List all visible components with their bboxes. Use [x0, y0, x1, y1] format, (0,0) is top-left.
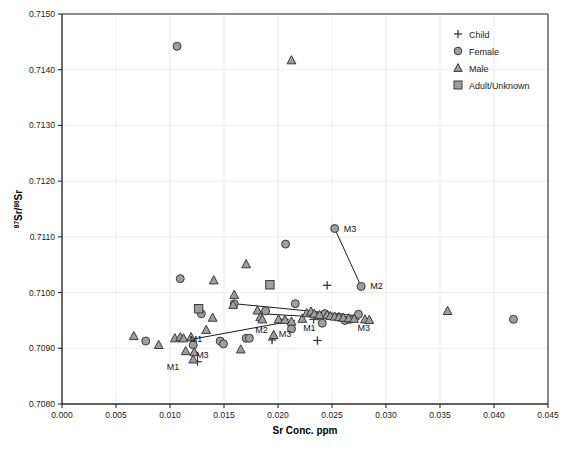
y-tick-label: 0.7110: [30, 232, 56, 242]
data-point-triangle: [236, 345, 245, 353]
x-axis-title: Sr Conc. ppm: [272, 425, 337, 436]
data-point-triangle: [230, 290, 239, 298]
data-point-triangle: [454, 64, 462, 72]
x-tick-label: 0.020: [267, 410, 289, 420]
data-point-square: [266, 281, 274, 289]
data-point-circle: [331, 225, 339, 233]
data-point-plus: [313, 336, 321, 344]
data-point-triangle: [129, 331, 138, 339]
data-point-plus: [454, 30, 462, 38]
data-point-circle: [245, 334, 253, 342]
chart-root: 0.0000.0050.0100.0150.0200.0250.0300.035…: [0, 0, 567, 461]
data-point-triangle: [202, 325, 211, 333]
y-tick-label: 0.7080: [29, 399, 55, 409]
x-tick-label: 0.040: [483, 410, 505, 420]
point-annotation-label: M1: [190, 334, 203, 344]
x-tick-label: 0.030: [375, 410, 397, 420]
data-point-circle: [262, 307, 270, 315]
y-tick-label: 0.7100: [29, 288, 55, 298]
data-point-circle: [219, 340, 227, 348]
y-axis-ticks: 0.70800.70900.71000.71100.71200.71300.71…: [29, 9, 62, 409]
legend-label-adult-unknown: Adult/Unknown: [469, 81, 530, 91]
x-tick-label: 0.035: [429, 410, 451, 420]
data-point-circle: [142, 337, 150, 345]
data-point-circle: [318, 319, 326, 327]
y-tick-label: 0.7120: [29, 176, 55, 186]
legend-label-child: Child: [469, 30, 490, 40]
data-point-triangle: [269, 330, 278, 338]
data-point-circle: [291, 300, 299, 308]
data-point-square: [454, 81, 462, 89]
scatter-plot: 0.0000.0050.0100.0150.0200.0250.0300.035…: [0, 0, 567, 461]
x-axis-ticks: 0.0000.0050.0100.0150.0200.0250.0300.035…: [51, 404, 559, 420]
x-tick-label: 0.005: [105, 410, 127, 420]
data-point-circle: [176, 275, 184, 283]
point-annotation-label: M2: [370, 281, 383, 291]
series-male: [129, 56, 451, 363]
data-point-circle: [357, 282, 365, 290]
data-point-circle: [173, 42, 181, 50]
legend-label-female: Female: [469, 47, 499, 57]
data-point-triangle: [287, 56, 296, 64]
data-point-triangle: [154, 340, 163, 348]
data-point-square: [194, 305, 202, 313]
data-point-plus: [323, 281, 331, 289]
x-tick-label: 0.045: [537, 410, 559, 420]
y-tick-label: 0.7140: [29, 65, 55, 75]
y-tick-label: 0.7150: [29, 9, 55, 19]
y-axis-title: 87Sr/86Sr: [13, 190, 25, 228]
point-annotation-label: M1: [167, 362, 180, 372]
point-annotation-label: M3: [196, 350, 209, 360]
point-annotation-label: M3: [344, 224, 357, 234]
axis-titles: Sr Conc. ppm87Sr/86Sr: [13, 190, 338, 436]
point-annotations: M3M2M1M3M1M2M3M1M3: [167, 224, 383, 373]
data-point-triangle: [242, 260, 251, 268]
x-tick-label: 0.000: [51, 410, 73, 420]
data-point-triangle: [181, 346, 190, 354]
data-point-triangle: [208, 313, 217, 321]
point-annotation-label: M2: [255, 325, 268, 335]
legend: ChildFemaleMaleAdult/Unknown: [454, 30, 530, 91]
data-point-triangle: [443, 306, 452, 314]
y-tick-label: 0.7090: [29, 343, 55, 353]
data-point-triangle: [209, 276, 218, 284]
y-tick-label: 0.7130: [29, 120, 55, 130]
data-point-circle: [509, 315, 517, 323]
point-annotation-label: M1: [303, 323, 316, 333]
x-tick-label: 0.025: [321, 410, 343, 420]
point-annotation-label: M3: [279, 329, 292, 339]
data-point-circle: [282, 240, 290, 248]
data-point-circle: [454, 47, 462, 55]
x-tick-label: 0.015: [213, 410, 235, 420]
legend-label-male: Male: [469, 64, 489, 74]
point-annotation-label: M3: [358, 323, 371, 333]
x-tick-label: 0.010: [159, 410, 181, 420]
